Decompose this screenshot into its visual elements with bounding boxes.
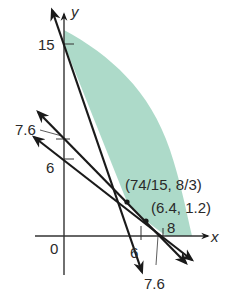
y-tick-label-15: 15 <box>38 37 55 52</box>
linear-programming-graph <box>0 0 233 304</box>
x-tick-label-6: 6 <box>130 245 138 260</box>
x-axis-label: x <box>211 229 219 244</box>
y-axis-label: y <box>71 4 79 19</box>
vertex-point-1 <box>124 199 129 204</box>
x-tick-label-8: 8 <box>167 220 175 235</box>
y-tick-label-6: 6 <box>46 160 54 175</box>
vertex-label-2: (6.4, 1.2) <box>151 200 211 215</box>
x-tick-label-7.6: 7.6 <box>144 276 165 291</box>
origin-label: 0 <box>50 241 58 256</box>
vertex-point-2 <box>143 218 148 223</box>
x-tick-7.6 <box>156 236 158 265</box>
y-tick-label-7.6: 7.6 <box>15 122 36 137</box>
vertex-label-1: (74/15, 8/3) <box>125 177 202 192</box>
